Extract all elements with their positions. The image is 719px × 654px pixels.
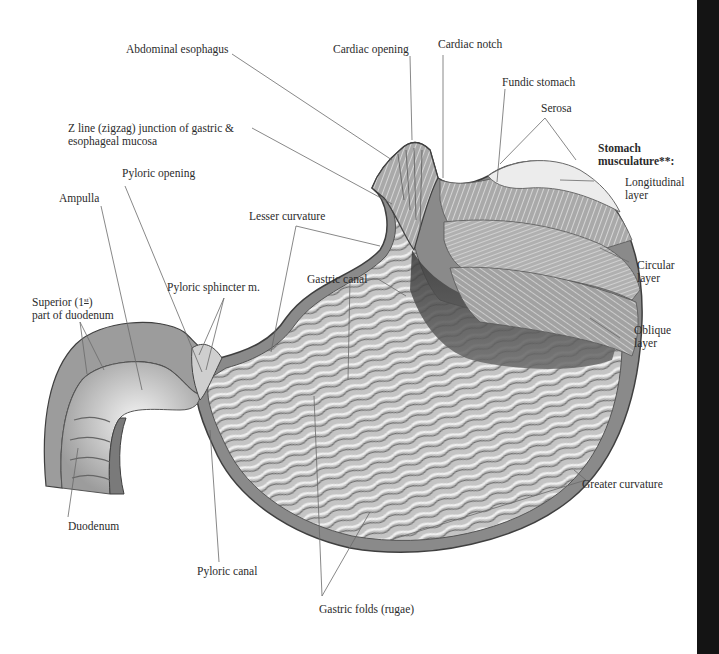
label-superior-duodenum: Superior (1st) part of duodenum xyxy=(32,294,114,322)
label-lesser-curvature: Lesser curvature xyxy=(249,210,325,223)
label-pyloric-canal: Pyloric canal xyxy=(197,565,257,578)
label-serosa: Serosa xyxy=(541,102,572,115)
label-circular-layer-line1: Circular xyxy=(637,259,675,272)
label-longitudinal-layer: Longitudinal layer xyxy=(625,176,684,202)
label-z-line-line1: Z line (zigzag) junction of gastric & xyxy=(68,122,234,135)
label-stomach-musculature: Stomach musculature**: xyxy=(598,142,674,168)
label-ampulla: Ampulla xyxy=(59,192,99,205)
label-gastric-folds: Gastric folds (rugae) xyxy=(319,603,414,616)
label-circular-layer: Circular layer xyxy=(637,259,675,285)
label-circular-layer-line2: layer xyxy=(637,272,675,285)
label-longitudinal-layer-line1: Longitudinal xyxy=(625,176,684,189)
label-duodenum: Duodenum xyxy=(68,520,119,533)
label-superior-text: Superior (1 xyxy=(32,296,84,308)
label-cardiac-notch: Cardiac notch xyxy=(438,38,502,51)
label-z-line: Z line (zigzag) junction of gastric & es… xyxy=(68,122,234,148)
label-fundic-stomach: Fundic stomach xyxy=(502,76,575,89)
label-abdominal-esophagus: Abdominal esophagus xyxy=(126,43,229,56)
label-oblique-layer-line2: layer xyxy=(634,337,671,350)
label-cardiac-opening: Cardiac opening xyxy=(333,43,409,56)
stomach-anatomy-diagram: Abdominal esophagus Cardiac opening Card… xyxy=(0,0,719,654)
label-oblique-layer-line1: Oblique xyxy=(634,324,671,337)
label-superior-duodenum-line2: part of duodenum xyxy=(32,309,114,322)
duodenum-region xyxy=(44,322,222,494)
label-longitudinal-layer-line2: layer xyxy=(625,189,684,202)
label-superior-paren: ) xyxy=(89,296,93,308)
label-z-line-line2: esophageal mucosa xyxy=(68,135,234,148)
label-stomach-musculature-line1: Stomach xyxy=(598,142,674,155)
label-oblique-layer: Oblique layer xyxy=(634,324,671,350)
stomach-illustration xyxy=(0,0,719,654)
label-pyloric-opening: Pyloric opening xyxy=(122,167,195,180)
label-pyloric-sphincter: Pyloric sphincter m. xyxy=(167,281,260,294)
right-edge-bar xyxy=(697,0,719,654)
label-gastric-canal: Gastric canal xyxy=(307,273,367,286)
label-superior-duodenum-line1: Superior (1st) xyxy=(32,294,114,309)
label-greater-curvature: Greater curvature xyxy=(582,478,663,491)
label-stomach-musculature-line2: musculature**: xyxy=(598,155,674,168)
